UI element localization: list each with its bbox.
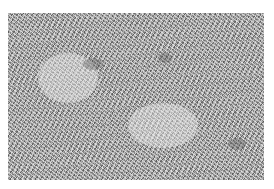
- grass-texture-photo: [8, 13, 264, 180]
- dark-patch: [158, 53, 172, 63]
- light-patch: [128, 103, 198, 148]
- dark-patch: [83, 58, 103, 70]
- dark-patch: [228, 138, 246, 150]
